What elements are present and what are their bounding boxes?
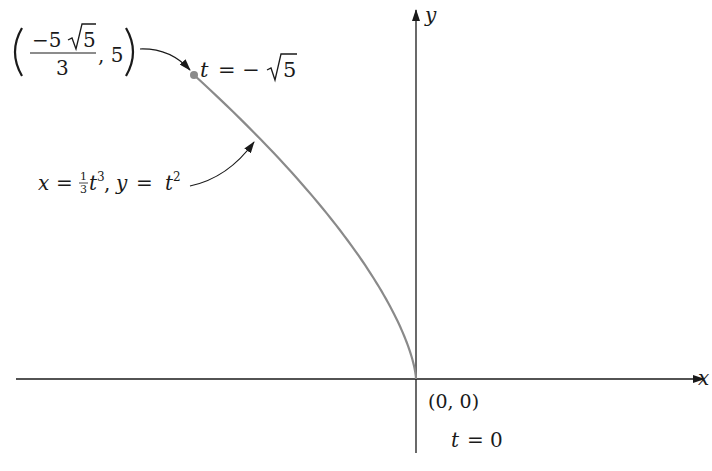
comma-y-value: , 5 [98, 43, 123, 67]
left-paren [15, 28, 22, 76]
fraction-numerator-minus5: −5 [32, 28, 61, 52]
fraction-denominator: 3 [56, 56, 69, 80]
eq-comma: , [104, 171, 110, 195]
parametric-diagram: x y −5 5 3 , 5 t = − 5 x = 1 3 t 3 , [0, 0, 712, 471]
eq-frac-num: 1 [80, 170, 87, 183]
start-point-coordinate-label: −5 5 3 , 5 [15, 24, 133, 80]
parametric-curve [194, 75, 416, 379]
eq-equals-1: = [56, 171, 73, 195]
origin-coordinate-label: (0, 0) [428, 390, 479, 412]
eq-y: y [115, 171, 128, 195]
origin-t-var: t [451, 428, 460, 452]
eq-equals-2: = [136, 171, 153, 195]
start-point-marker [190, 71, 198, 79]
origin-t-label: t = 0 [451, 428, 503, 452]
start-t-root: 5 [283, 58, 296, 82]
eq-exp-2: 2 [173, 170, 181, 184]
start-t-eq: = − [218, 58, 260, 82]
curve-equation-label: x = 1 3 t 3 , y = t 2 [38, 170, 181, 196]
x-axis-label: x [698, 366, 709, 390]
fraction-numerator-root: 5 [83, 28, 96, 52]
start-point-pointer-arrow [140, 49, 190, 70]
curve-pointer-arrow [190, 142, 254, 186]
eq-frac-den: 3 [80, 183, 87, 196]
start-t-label: t = − 5 [200, 54, 297, 82]
start-t-var: t [200, 58, 209, 82]
eq-x: x [38, 171, 49, 195]
y-axis-label: y [424, 3, 437, 27]
right-paren [126, 28, 133, 76]
origin-t-rest: = 0 [467, 428, 503, 452]
